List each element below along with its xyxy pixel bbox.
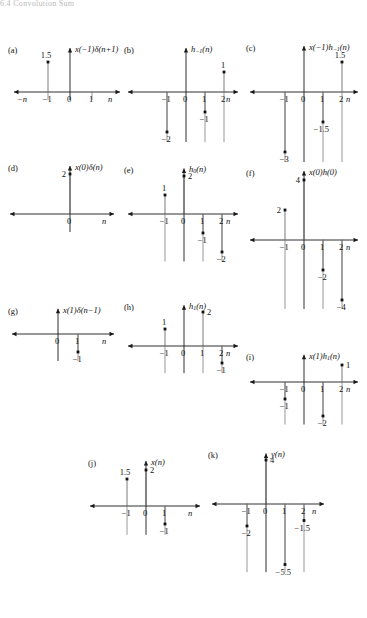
panel-tag: (e) bbox=[124, 165, 133, 175]
stem-value-label: −5.5 bbox=[276, 567, 291, 577]
stem-value-label: −2 bbox=[217, 254, 226, 264]
x-tick-label: −1 bbox=[43, 94, 52, 104]
x-tick-label: 2 bbox=[219, 216, 223, 226]
stem-plot-panel-g: (g)x(1)δ(n−1)n01−1 bbox=[8, 296, 120, 366]
x-tick-label: 2 bbox=[221, 94, 225, 104]
stem-value-label: −1 bbox=[160, 526, 169, 536]
stem-value-label: 2 bbox=[188, 171, 192, 181]
x-tick-label: 1 bbox=[75, 336, 79, 346]
x-tick-label: −1 bbox=[122, 508, 131, 518]
x-tick-label: −1 bbox=[242, 506, 251, 516]
stem-value-label: −1 bbox=[280, 401, 289, 411]
stem-value-label: −2 bbox=[242, 528, 251, 538]
x-tick-label: 0 bbox=[181, 216, 185, 226]
x-tick-label: −1 bbox=[160, 348, 169, 358]
x-axis-label: n bbox=[226, 348, 230, 358]
x-tick-label: 0 bbox=[301, 384, 305, 394]
stem-plot-panel-e: (e)h0(n)n−101212−1−2 bbox=[124, 160, 242, 260]
panel-tag: (h) bbox=[124, 302, 134, 312]
stem-plot-panel-i: (i)x(1)h1(n)n−1012−1−21 bbox=[246, 330, 364, 425]
stem-plot-panel-b: (b)h−1(n)n−1012−2−11 bbox=[124, 14, 242, 138]
stem-plot-panel-c: (c)x(−1)h−1(n)n−1012−3−1.51.5 bbox=[246, 14, 364, 144]
x-tick-label: 0 bbox=[143, 508, 147, 518]
x-axis-label: n bbox=[312, 506, 316, 516]
stem-plot-panel-h: (h)h1(n)n−101212−1 bbox=[124, 296, 242, 386]
x-tick-label: 0 bbox=[55, 336, 59, 346]
panel-tag: (j) bbox=[88, 458, 96, 468]
panel-signal-title: x(0)h(0) bbox=[309, 167, 337, 177]
stem-value-label: −2 bbox=[318, 272, 327, 282]
stem-value-label: 2 bbox=[207, 307, 211, 317]
x-axis-label: n bbox=[346, 242, 350, 252]
panel-tag: (a) bbox=[8, 45, 17, 55]
x-axis-label: n bbox=[346, 94, 350, 104]
x-axis-label: n bbox=[346, 384, 350, 394]
panel-signal-title: h−1(n) bbox=[191, 44, 212, 54]
x-axis-label: n bbox=[102, 336, 106, 346]
panel-signal-title: h1(n) bbox=[189, 301, 206, 311]
panel-signal-title: x(1)δ(n−1) bbox=[63, 305, 101, 315]
stem-value-label: −1 bbox=[217, 365, 226, 375]
stem-value-label: 4 bbox=[296, 175, 300, 185]
stem-plot-panel-f: (f)x(0)h(0)n−101224−2−4 bbox=[246, 160, 364, 285]
x-tick-label: 0 bbox=[263, 506, 267, 516]
x-tick-label: 1 bbox=[320, 242, 324, 252]
panel-signal-title: x(0)δ(n) bbox=[75, 162, 103, 172]
panel-tag: (d) bbox=[8, 163, 18, 173]
stem-value-label: 1.5 bbox=[41, 50, 52, 60]
x-tick-label: 1 bbox=[89, 94, 93, 104]
stem-value-label: 1 bbox=[346, 360, 350, 370]
x-axis-label: n bbox=[102, 216, 106, 226]
stem-value-label: 4 bbox=[270, 455, 274, 465]
panel-signal-title: x(−1)δ(n+1) bbox=[75, 44, 118, 54]
stem-value-label: −1.5 bbox=[314, 124, 329, 134]
stem-value-label: 1 bbox=[221, 60, 225, 70]
stem-value-label: 2 bbox=[62, 169, 66, 179]
x-tick-label: 2 bbox=[219, 348, 223, 358]
x-axis-label: n bbox=[226, 216, 230, 226]
panel-tag: (b) bbox=[124, 45, 134, 55]
x-axis-label: n bbox=[108, 94, 112, 104]
x-tick-label: 2 bbox=[339, 384, 343, 394]
stem-value-label: −1 bbox=[198, 235, 207, 245]
stem-value-label: 2 bbox=[150, 465, 154, 475]
x-tick-label: 2 bbox=[339, 94, 343, 104]
panel-tag: (g) bbox=[8, 306, 18, 316]
stem-value-label: −4 bbox=[337, 302, 346, 312]
x-axis-label: n bbox=[188, 508, 192, 518]
stem-plot-panel-d: (d)x(0)δ(n)n02 bbox=[8, 160, 120, 240]
stem-value-label: 2 bbox=[277, 205, 281, 215]
stem-value-label: −1.5 bbox=[295, 523, 310, 533]
page-header-text: 6.4 Convolution Sum bbox=[0, 0, 130, 7]
stem-value-label: −1 bbox=[73, 354, 82, 364]
x-tick-label: 1 bbox=[320, 94, 324, 104]
x-tick-label: −1 bbox=[280, 94, 289, 104]
stem-value-label: 1.5 bbox=[335, 50, 346, 60]
stem-value-label: −2 bbox=[162, 134, 171, 144]
stem-value-label: 1 bbox=[162, 183, 166, 193]
x-tick-label: 0 bbox=[67, 216, 71, 226]
x-tick-label: −1 bbox=[280, 242, 289, 252]
panel-tag: (k) bbox=[208, 450, 218, 460]
panel-tag: (f) bbox=[246, 168, 255, 178]
stem-plot-panel-a: (a)x(−1)δ(n+1)n−n−1011.5 bbox=[8, 14, 120, 124]
x-tick-label: 1 bbox=[200, 216, 204, 226]
x-axis-left-label: −n bbox=[17, 94, 27, 104]
stem-plot-panel-k: (k)y(n)n−1012−24−1.5−5.5 bbox=[208, 436, 333, 576]
panel-tag: (c) bbox=[246, 43, 255, 53]
x-axis-label: n bbox=[226, 94, 230, 104]
panel-signal-title: x(1)h1(n) bbox=[309, 351, 340, 361]
x-tick-label: 1 bbox=[202, 94, 206, 104]
x-tick-label: 2 bbox=[301, 506, 305, 516]
x-tick-label: 0 bbox=[183, 94, 187, 104]
x-tick-label: 0 bbox=[301, 242, 305, 252]
stem-value-label: −2 bbox=[318, 418, 327, 428]
x-tick-label: 0 bbox=[301, 94, 305, 104]
x-tick-label: −1 bbox=[160, 216, 169, 226]
panel-tag: (i) bbox=[246, 352, 254, 362]
x-tick-label: −1 bbox=[280, 384, 289, 394]
x-tick-label: 0 bbox=[67, 94, 71, 104]
stem-value-label: 1.5 bbox=[120, 467, 131, 477]
stem-value-label: 1 bbox=[162, 317, 166, 327]
x-tick-label: 1 bbox=[282, 506, 286, 516]
